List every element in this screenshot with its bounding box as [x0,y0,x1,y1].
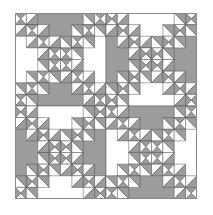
quilt-block [15,106,106,199]
quilt-block [106,106,197,199]
quilt-pattern: Quilt block pattern [15,13,197,199]
quilt-block [106,13,197,106]
quilt-svg [15,13,197,199]
quilt-block [15,13,106,106]
